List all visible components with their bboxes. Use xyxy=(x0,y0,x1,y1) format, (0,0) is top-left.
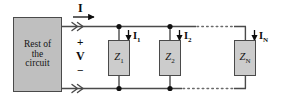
impedance-label-z1: Z1 xyxy=(114,51,123,65)
total-current-label: I xyxy=(78,1,83,16)
node-dot-z2-bottom xyxy=(167,86,172,91)
impedance-label-zn: ZN xyxy=(240,51,251,65)
impedance-block-z1: Z1 xyxy=(108,40,130,76)
branch-current-label-1: I1 xyxy=(133,30,141,44)
polarity-plus-label: + xyxy=(77,36,83,48)
rest-of-circuit-line-3: circuit xyxy=(25,59,49,69)
voltage-label: V xyxy=(76,49,85,64)
node-dot-z1-top xyxy=(116,24,121,29)
rest-of-circuit-block: Rest of the circuit xyxy=(13,17,62,92)
node-dot-z2-top xyxy=(167,24,172,29)
impedance-block-zn: ZN xyxy=(234,40,256,76)
impedance-label-z2: Z2 xyxy=(165,51,174,65)
impedance-block-z2: Z2 xyxy=(159,40,181,76)
branch-current-label-n: IN xyxy=(259,30,268,44)
node-dot-z1-bottom xyxy=(116,86,121,91)
branch-current-label-2: I2 xyxy=(184,30,192,44)
circuit-diagram-figure: Rest of the circuit I + V − Z1 I1 Z2 I2 … xyxy=(0,0,282,106)
polarity-minus-label: − xyxy=(77,64,83,76)
